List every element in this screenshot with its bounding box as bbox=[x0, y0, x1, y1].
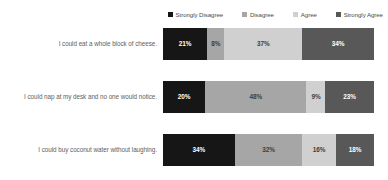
chart-row: I could buy coconut water without laughi… bbox=[0, 134, 388, 166]
segment-value-label: 18% bbox=[349, 146, 362, 154]
bar-segment-strongly-agree[interactable]: 18% bbox=[336, 134, 374, 166]
chart-legend: Strongly DisagreeDisagreeAgreeStrongly A… bbox=[168, 8, 383, 20]
legend-swatch-icon bbox=[168, 12, 173, 17]
segment-value-label: 9% bbox=[311, 93, 320, 101]
legend-item-0[interactable]: Strongly Disagree bbox=[168, 11, 223, 18]
category-label: I could eat a whole block of cheese. bbox=[0, 40, 163, 48]
category-label: I could buy coconut water without laughi… bbox=[0, 146, 163, 154]
bar-segment-strongly-disagree[interactable]: 20% bbox=[163, 81, 205, 113]
chart-row: I could eat a whole block of cheese.21%8… bbox=[0, 28, 388, 60]
segment-value-label: 16% bbox=[313, 146, 326, 154]
bar-segment-strongly-disagree[interactable]: 34% bbox=[163, 134, 235, 166]
bar-segment-disagree[interactable]: 32% bbox=[235, 134, 303, 166]
bar-segment-agree[interactable]: 9% bbox=[306, 81, 325, 113]
segment-value-label: 34% bbox=[193, 146, 206, 154]
legend-item-3[interactable]: Strongly Agree bbox=[336, 11, 383, 18]
bar-segment-agree[interactable]: 37% bbox=[224, 28, 302, 60]
segment-value-label: 48% bbox=[249, 93, 262, 101]
segment-value-label: 34% bbox=[332, 40, 345, 48]
stacked-bar-chart: Strongly DisagreeDisagreeAgreeStrongly A… bbox=[0, 0, 388, 180]
legend-item-label: Agree bbox=[301, 11, 317, 18]
chart-row: I could nap at my desk and no one would … bbox=[0, 81, 388, 113]
stacked-bar: 34%32%16%18% bbox=[163, 134, 374, 166]
legend-swatch-icon bbox=[293, 12, 298, 17]
category-label: I could nap at my desk and no one would … bbox=[0, 93, 163, 101]
segment-value-label: 21% bbox=[179, 40, 192, 48]
stacked-bar: 21%8%37%34% bbox=[163, 28, 374, 60]
bar-segment-disagree[interactable]: 48% bbox=[205, 81, 306, 113]
bar-segment-disagree[interactable]: 8% bbox=[207, 28, 224, 60]
legend-item-1[interactable]: Disagree bbox=[242, 11, 274, 18]
segment-value-label: 20% bbox=[178, 93, 191, 101]
bar-segment-strongly-disagree[interactable]: 21% bbox=[163, 28, 207, 60]
segment-value-label: 8% bbox=[211, 40, 220, 48]
stacked-bar: 20%48%9%23% bbox=[163, 81, 374, 113]
legend-swatch-icon bbox=[242, 12, 247, 17]
legend-item-label: Strongly Agree bbox=[344, 11, 383, 18]
legend-item-2[interactable]: Agree bbox=[293, 11, 317, 18]
bar-segment-strongly-agree[interactable]: 34% bbox=[302, 28, 374, 60]
legend-item-label: Strongly Disagree bbox=[176, 11, 224, 18]
segment-value-label: 23% bbox=[343, 93, 356, 101]
legend-item-label: Disagree bbox=[250, 11, 274, 18]
legend-swatch-icon bbox=[336, 12, 341, 17]
segment-value-label: 37% bbox=[257, 40, 270, 48]
segment-value-label: 32% bbox=[262, 146, 275, 154]
bar-segment-agree[interactable]: 16% bbox=[302, 134, 336, 166]
bar-segment-strongly-agree[interactable]: 23% bbox=[325, 81, 374, 113]
